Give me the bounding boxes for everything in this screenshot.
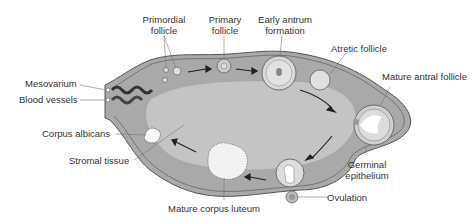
label-line: epithelium [342, 170, 392, 181]
label-mature-antral-follicle: Mature antral follicle [382, 71, 467, 82]
label-mature-corpus-luteum: Mature corpus luteum [168, 203, 260, 214]
label-line: formation [255, 25, 315, 36]
label-corpus-albicans: Corpus albicans [42, 128, 110, 139]
label-atretic-follicle: Atretic follicle [331, 43, 387, 54]
label-line: follicle [200, 25, 250, 36]
atretic-follicle [310, 70, 330, 90]
label-blood-vessels: Blood vessels [19, 94, 78, 105]
label-early-antrum: Early antrum formation [255, 14, 315, 36]
primordial-follicle-2 [173, 67, 181, 75]
label-line: Primordial [134, 14, 194, 25]
label-ovulation: Ovulation [327, 192, 367, 203]
label-line: Germinal [342, 159, 392, 170]
stromal-tissue-region [146, 81, 356, 169]
label-primordial-follicle: Primordial follicle [134, 14, 194, 36]
primordial-follicle-1 [164, 68, 169, 73]
label-primary-follicle: Primary follicle [200, 14, 250, 36]
label-line: Early antrum [255, 14, 315, 25]
label-line: follicle [134, 25, 194, 36]
label-line: Primary [200, 14, 250, 25]
label-mesovarium: Mesovarium [25, 78, 77, 89]
label-germinal-epithelium: Germinal epithelium [342, 159, 392, 181]
label-stromal-tissue: Stromal tissue [69, 155, 129, 166]
